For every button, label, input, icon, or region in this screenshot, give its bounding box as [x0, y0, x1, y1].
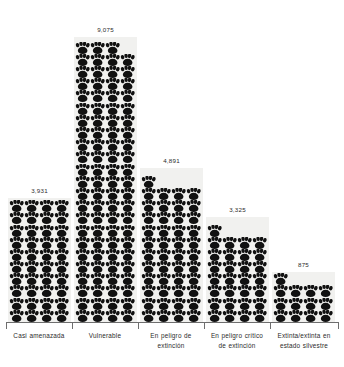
paw-print-icon — [207, 273, 222, 285]
paw-row — [206, 298, 269, 310]
paw-print-icon — [120, 78, 135, 90]
paw-print-icon — [90, 237, 105, 249]
paw-print-icon — [75, 54, 90, 66]
paw-print-icon — [171, 225, 186, 237]
paw-print-icon — [120, 261, 135, 273]
bar-column[interactable] — [74, 37, 137, 322]
paw-print-icon — [156, 225, 171, 237]
paw-print-icon — [105, 54, 120, 66]
paw-row — [74, 127, 137, 139]
paw-row — [206, 261, 269, 273]
paw-print-icon — [75, 200, 90, 212]
paw-print-icon — [9, 249, 24, 261]
category-label-en-peligro-de-extincion: En peligro de extinción — [140, 331, 202, 350]
paw-print-icon — [105, 285, 120, 297]
paw-print-icon — [54, 200, 69, 212]
paw-print-icon — [54, 273, 69, 285]
paw-print-icon — [75, 103, 90, 115]
paw-print-icon — [186, 225, 201, 237]
paw-print-icon — [105, 151, 120, 163]
paw-print-icon — [24, 200, 39, 212]
paw-row — [206, 225, 269, 237]
paw-print-icon — [105, 176, 120, 188]
paw-row — [140, 188, 203, 200]
paw-print-icon — [39, 200, 54, 212]
paw-print-icon — [9, 200, 24, 212]
paw-print-icon — [207, 298, 222, 310]
paw-print-icon — [39, 273, 54, 285]
paw-print-icon — [141, 188, 156, 200]
paw-print-icon — [120, 103, 135, 115]
paw-print-icon — [120, 54, 135, 66]
paw-print-icon — [105, 237, 120, 249]
paw-print-icon — [171, 212, 186, 224]
paw-print-icon — [75, 176, 90, 188]
bar-column[interactable] — [8, 198, 71, 322]
paw-print-icon — [105, 188, 120, 200]
paw-print-icon — [54, 212, 69, 224]
paw-print-icon — [105, 90, 120, 102]
paw-print-icon — [90, 212, 105, 224]
paw-print-icon — [120, 139, 135, 151]
paw-row — [8, 298, 71, 310]
paw-row — [74, 66, 137, 78]
paw-print-icon — [75, 90, 90, 102]
paw-print-icon — [120, 200, 135, 212]
paw-row — [140, 176, 203, 188]
paw-row — [140, 285, 203, 297]
paw-print-icon — [141, 212, 156, 224]
paw-print-icon — [105, 139, 120, 151]
paw-row — [74, 151, 137, 163]
paw-print-icon — [75, 139, 90, 151]
paw-print-icon — [90, 273, 105, 285]
paw-row — [140, 249, 203, 261]
paw-row — [74, 42, 137, 54]
paw-print-icon — [120, 298, 135, 310]
paw-print-icon — [9, 285, 24, 297]
bar-column[interactable] — [206, 217, 269, 322]
paw-print-icon — [237, 273, 252, 285]
paw-print-icon — [120, 115, 135, 127]
paw-print-icon — [54, 225, 69, 237]
paw-print-icon — [120, 66, 135, 78]
paw-print-icon — [186, 249, 201, 261]
paw-print-icon — [120, 225, 135, 237]
paw-print-icon — [120, 188, 135, 200]
paw-print-icon — [90, 115, 105, 127]
paw-row — [272, 298, 335, 310]
bar-column[interactable] — [272, 272, 335, 322]
paw-print-icon — [171, 200, 186, 212]
axis-tick — [6, 322, 7, 329]
bar-column[interactable] — [140, 168, 203, 322]
paw-row — [74, 78, 137, 90]
paw-print-icon — [105, 225, 120, 237]
paw-print-icon — [207, 237, 222, 249]
paw-print-icon — [75, 78, 90, 90]
paw-row — [272, 285, 335, 297]
paw-print-icon — [120, 151, 135, 163]
paw-print-icon — [120, 310, 135, 322]
paw-print-icon — [252, 298, 267, 310]
paw-print-icon — [222, 249, 237, 261]
paw-print-icon — [105, 78, 120, 90]
paw-row — [140, 310, 203, 322]
paw-print-icon — [237, 237, 252, 249]
paw-row — [206, 237, 269, 249]
bar-group-en-peligro-critico-de-extincion: 3,325 — [206, 207, 269, 322]
paw-print-icon — [207, 225, 222, 237]
bar-group-extinta-extinta-en-estado-silvestre: 875 — [272, 262, 335, 322]
axis-line — [6, 322, 338, 323]
paw-print-icon — [105, 200, 120, 212]
paw-row — [74, 273, 137, 285]
paw-print-icon — [105, 310, 120, 322]
paw-print-icon — [141, 176, 156, 188]
paw-row — [74, 176, 137, 188]
axis-tick — [204, 322, 205, 329]
paw-row — [140, 212, 203, 224]
paw-print-icon — [120, 90, 135, 102]
paw-print-icon — [54, 310, 69, 322]
category-label-extinta-extinta-en-estado-silvestre: Extinta/extinta en estado silvestre — [272, 331, 336, 350]
pictogram-bar-chart: 3,931 — [0, 0, 344, 367]
paw-print-icon — [54, 237, 69, 249]
paw-print-icon — [90, 249, 105, 261]
